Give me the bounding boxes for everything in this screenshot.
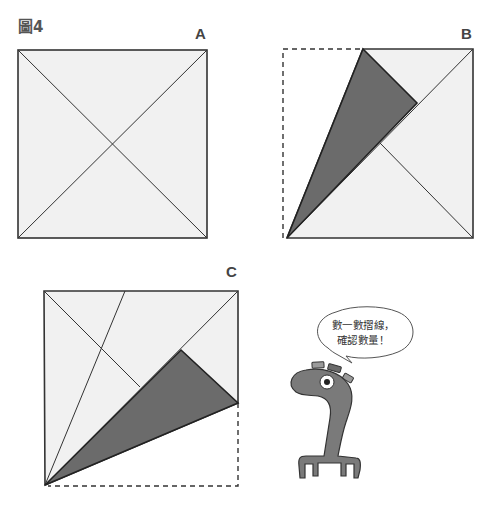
folding-diagram: [0, 0, 492, 508]
panel-a-square: [18, 50, 207, 238]
panel-b-folded-square: [283, 49, 473, 238]
figure-title: 圖4: [18, 15, 43, 36]
speech-line-1: 數一數摺線，: [322, 318, 404, 333]
panel-c-label: C: [226, 263, 237, 280]
speech-line-2: 確認數量！: [322, 333, 404, 348]
panel-c-folded-square: [44, 291, 238, 486]
panel-b-label: B: [461, 25, 472, 42]
panel-a-label: A: [195, 25, 206, 42]
cartoon-creature-icon: [291, 362, 360, 478]
speech-bubble-text: 數一數摺線， 確認數量！: [322, 318, 404, 348]
